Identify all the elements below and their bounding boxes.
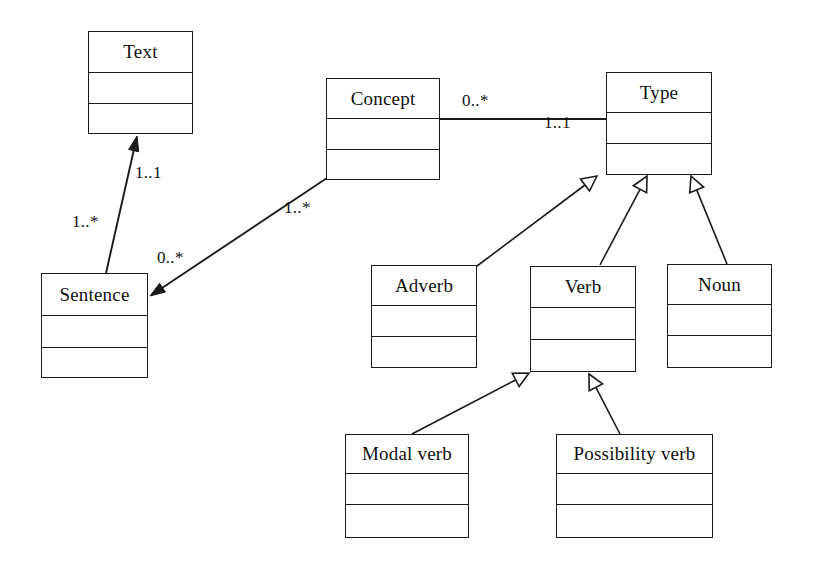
class-name-type: Type xyxy=(607,73,711,113)
class-name-noun: Noun xyxy=(668,265,771,305)
class-operations-possibility-verb xyxy=(557,505,712,537)
class-box-text[interactable]: Text xyxy=(88,31,193,134)
class-operations-text xyxy=(89,104,192,133)
multiplicity-label: 1..* xyxy=(72,212,99,232)
association-concept-to-sentence xyxy=(150,178,327,296)
multiplicity-label: 0..* xyxy=(157,248,184,268)
class-box-adverb[interactable]: Adverb xyxy=(371,265,477,368)
class-operations-modal-verb xyxy=(346,505,468,537)
class-attributes-modal-verb xyxy=(346,474,468,505)
class-name-possibility-verb: Possibility verb xyxy=(557,435,712,474)
class-name-modal-verb: Modal verb xyxy=(346,435,468,474)
class-operations-adverb xyxy=(372,337,476,367)
class-operations-concept xyxy=(327,150,439,179)
class-box-sentence[interactable]: Sentence xyxy=(41,273,148,378)
hollow-triangle-arrowhead-icon xyxy=(633,176,647,193)
hollow-triangle-arrowhead-icon xyxy=(581,176,598,191)
generalization-possibility-verb-to-verb xyxy=(589,374,620,434)
class-attributes-type xyxy=(607,113,711,144)
hollow-triangle-arrowhead-icon xyxy=(589,374,603,391)
class-operations-noun xyxy=(668,336,771,367)
class-operations-type xyxy=(607,144,711,174)
class-operations-verb xyxy=(531,340,635,371)
class-attributes-text xyxy=(89,73,192,104)
generalization-noun-to-type xyxy=(690,176,727,264)
class-attributes-sentence xyxy=(42,316,147,348)
class-attributes-verb xyxy=(531,308,635,340)
class-attributes-possibility-verb xyxy=(557,474,712,505)
association-sentence-to-text xyxy=(106,136,139,273)
multiplicity-label: 1..1 xyxy=(544,113,571,133)
class-attributes-adverb xyxy=(372,306,476,337)
class-name-sentence: Sentence xyxy=(42,274,147,316)
uml-class-diagram: 1..11..*1..*0..*0..*1..1TextSentenceConc… xyxy=(0,0,814,571)
class-attributes-concept xyxy=(327,119,439,150)
class-box-concept[interactable]: Concept xyxy=(326,78,440,180)
class-name-verb: Verb xyxy=(531,267,635,308)
filled-arrowhead-icon xyxy=(150,283,165,296)
class-name-concept: Concept xyxy=(327,79,439,119)
class-name-adverb: Adverb xyxy=(372,266,476,306)
class-box-verb[interactable]: Verb xyxy=(530,266,636,372)
class-box-noun[interactable]: Noun xyxy=(667,264,772,368)
class-operations-sentence xyxy=(42,348,147,377)
multiplicity-label: 0..* xyxy=(462,91,489,111)
class-attributes-noun xyxy=(668,305,771,336)
multiplicity-label: 1..* xyxy=(284,198,311,218)
hollow-triangle-arrowhead-icon xyxy=(690,176,704,193)
generalization-verb-to-type xyxy=(600,176,647,265)
hollow-triangle-arrowhead-icon xyxy=(512,373,529,387)
filled-arrowhead-icon xyxy=(129,136,139,152)
generalization-modal-verb-to-verb xyxy=(412,373,529,434)
class-name-text: Text xyxy=(89,32,192,73)
class-box-modal-verb[interactable]: Modal verb xyxy=(345,434,469,538)
multiplicity-label: 1..1 xyxy=(135,163,162,183)
class-box-type[interactable]: Type xyxy=(606,72,712,175)
class-box-possibility-verb[interactable]: Possibility verb xyxy=(556,434,713,538)
generalization-adverb-to-type xyxy=(477,176,597,266)
